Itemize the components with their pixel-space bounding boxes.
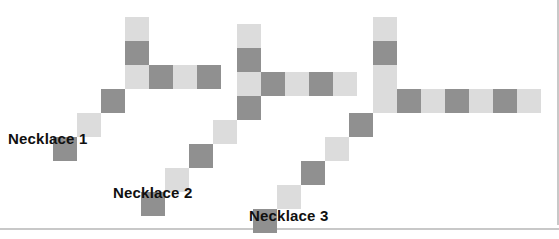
bead-n2-7-dark [309,72,333,96]
bead-n3-13-dark [301,161,325,185]
necklace-2-label: Necklace 2 [113,184,193,201]
bead-n2-8-light [333,72,357,96]
bead-n1-5-light [173,65,197,89]
bead-n2-6-light [285,72,309,96]
bead-n3-6-light [421,89,445,113]
bead-n2-1-light [237,24,261,48]
necklace-pattern-figure: Necklace 1 Necklace 2 Necklace 3 [0,0,559,239]
bead-n3-12-light [325,137,349,161]
bead-n3-5-dark [397,89,421,113]
bead-n2-4-dark [237,96,261,120]
bead-n3-1-light [373,17,397,41]
bead-n3-4-light [373,89,397,113]
necklace-3-label: Necklace 3 [249,207,329,224]
bead-n3-11-dark [349,113,373,137]
bead-n1-4-dark [149,65,173,89]
bead-n2-5-dark [261,72,285,96]
bottom-edge-rule [0,228,559,230]
bead-n3-9-dark [493,89,517,113]
bead-n3-7-dark [445,89,469,113]
bead-n3-3-light [373,65,397,89]
bead-n2-10-dark [189,144,213,168]
bead-n3-8-light [469,89,493,113]
bead-n1-3-light [125,65,149,89]
bead-n1-2-dark [125,41,149,65]
bead-n1-6-dark [197,65,221,89]
bead-n3-14-light [277,185,301,209]
bead-n3-10-light [517,89,541,113]
bead-n2-2-dark [237,48,261,72]
bead-n1-7-dark [101,89,125,113]
bead-n2-9-light [213,120,237,144]
bead-n1-1-light [125,17,149,41]
bead-n2-3-light [237,72,261,96]
necklace-1-label: Necklace 1 [8,130,88,147]
bead-n3-2-dark [373,41,397,65]
